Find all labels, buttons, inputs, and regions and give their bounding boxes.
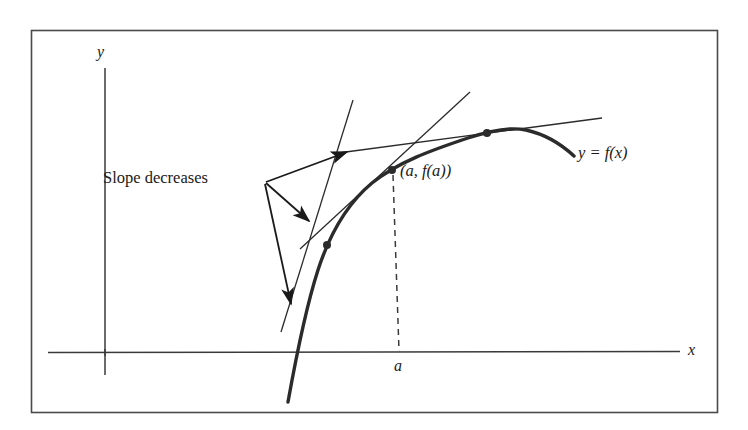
annotation-slope-decreases: Slope decreases (103, 170, 208, 187)
figure-container: Slope decreases (a, f(a)) y = f(x) y x a (0, 0, 748, 430)
dropline-dashed (393, 175, 399, 351)
axis-label-y: y (97, 44, 104, 60)
tangent-point-lower (323, 241, 331, 249)
tangent-point-a (388, 166, 396, 174)
axis-tick-label-a: a (394, 358, 402, 374)
slope-arrow-top (266, 152, 347, 182)
function-tangent-diagram (0, 0, 748, 430)
axis-label-x: x (688, 342, 695, 358)
x-axis-line (48, 352, 680, 353)
annotation-point-a-fa: (a, f(a)) (400, 163, 451, 180)
annotation-function-label: y = f(x) (578, 145, 628, 162)
figure-frame (32, 31, 718, 413)
tangent-point-upper (483, 129, 491, 137)
